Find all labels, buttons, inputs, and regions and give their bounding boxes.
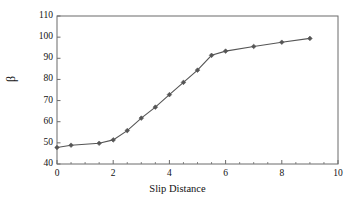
x-tick-label: 2	[111, 169, 116, 179]
y-tick-label: 70	[20, 96, 53, 106]
x-tick-label: 4	[167, 169, 172, 179]
y-tick-label: 80	[20, 75, 53, 85]
x-tick-label: 6	[223, 169, 228, 179]
y-tick-label: 40	[20, 159, 53, 169]
data-point-marker	[308, 36, 313, 41]
x-tick-label: 10	[333, 169, 343, 179]
data-point-marker	[251, 44, 256, 49]
y-axis-title: β	[4, 76, 19, 82]
data-point-marker	[97, 141, 102, 146]
data-point-marker	[69, 143, 74, 148]
chart-plot-area	[0, 0, 355, 203]
x-tick-label: 0	[55, 169, 60, 179]
series-markers	[55, 36, 313, 150]
data-point-marker	[280, 40, 285, 45]
x-tick-label: 8	[279, 169, 284, 179]
y-tick-label: 110	[20, 11, 53, 21]
series-line	[57, 38, 310, 147]
x-axis-title: Slip Distance	[0, 183, 355, 194]
y-major-ticks	[57, 16, 61, 164]
chart-figure: 405060708090100110 0246810 Slip Distance…	[0, 0, 355, 203]
data-point-marker	[55, 145, 60, 150]
y-tick-label: 60	[20, 117, 53, 127]
y-tick-label: 90	[20, 54, 53, 64]
y-tick-label: 100	[20, 32, 53, 42]
data-point-marker	[223, 49, 228, 54]
y-tick-label: 50	[20, 138, 53, 148]
